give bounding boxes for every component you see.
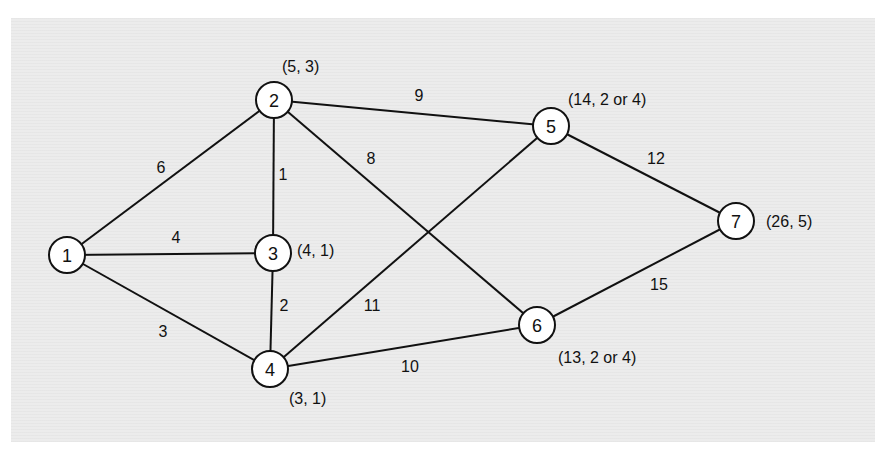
weight-2-5: 9 <box>415 87 424 104</box>
svg-text:1: 1 <box>62 246 72 266</box>
edge-1-4 <box>67 255 270 369</box>
weight-1-2: 6 <box>157 159 166 176</box>
weight-2-3: 1 <box>279 166 288 183</box>
graph-svg: 6 4 3 1 9 8 2 11 10 12 15 1 2 3 4 <box>0 0 885 462</box>
weight-2-6: 8 <box>367 150 376 167</box>
weight-4-6: 10 <box>401 358 419 375</box>
weight-4-5: 11 <box>364 297 381 314</box>
edge-6-7 <box>537 221 736 325</box>
edge-2-5 <box>274 100 551 126</box>
svg-text:5: 5 <box>546 117 556 137</box>
edge-2-6 <box>274 100 537 325</box>
annotation-node-4: (3, 1) <box>289 390 326 407</box>
node-4: 4 <box>252 351 288 387</box>
node-3: 3 <box>255 235 291 271</box>
annotation-node-6: (13, 2 or 4) <box>558 349 636 366</box>
edge-1-2 <box>67 100 274 255</box>
edge-1-3 <box>67 253 273 255</box>
node-7: 7 <box>718 203 754 239</box>
node-2: 2 <box>256 82 292 118</box>
weight-1-4: 3 <box>159 323 168 340</box>
svg-text:6: 6 <box>532 316 542 336</box>
node-5: 5 <box>533 108 569 144</box>
weight-5-7: 12 <box>647 150 665 167</box>
weight-6-7: 15 <box>650 276 668 293</box>
edge-2-3 <box>273 100 274 253</box>
graph-canvas: 6 4 3 1 9 8 2 11 10 12 15 1 2 3 4 <box>0 0 885 462</box>
svg-text:4: 4 <box>265 360 275 380</box>
annotation-node-3: (4, 1) <box>297 242 334 259</box>
annotation-node-5: (14, 2 or 4) <box>568 91 646 108</box>
annotation-node-2: (5, 3) <box>282 58 319 75</box>
svg-text:2: 2 <box>269 91 279 111</box>
node-1: 1 <box>49 237 85 273</box>
weight-3-4: 2 <box>280 297 289 314</box>
node-6: 6 <box>519 307 555 343</box>
edge-5-7 <box>551 126 736 221</box>
annotation-node-7: (26, 5) <box>766 213 812 230</box>
weight-1-3: 4 <box>172 229 181 246</box>
svg-text:3: 3 <box>268 244 278 264</box>
svg-text:7: 7 <box>731 212 741 232</box>
